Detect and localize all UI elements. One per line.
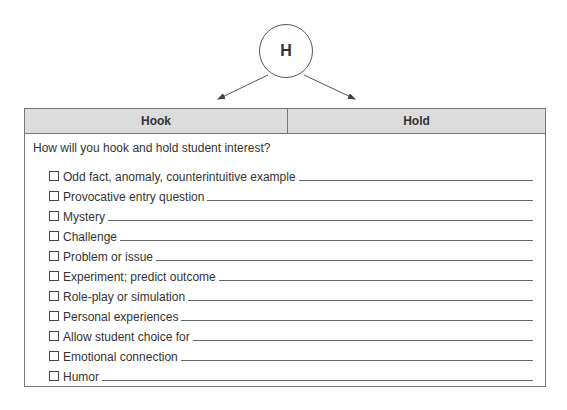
write-in-line[interactable] (108, 220, 533, 221)
checkbox[interactable] (49, 311, 59, 321)
item-label: Provocative entry question (63, 190, 204, 204)
item-label: Odd fact, anomaly, counterintuitive exam… (63, 170, 296, 184)
write-in-line[interactable] (207, 200, 533, 201)
hook-hold-table: Hook Hold How will you hook and hold stu… (24, 108, 546, 387)
checklist-item: Mystery (49, 204, 533, 224)
item-label: Challenge (63, 230, 117, 244)
checklist-item: Odd fact, anomaly, counterintuitive exam… (49, 164, 533, 184)
checkbox[interactable] (49, 251, 59, 261)
item-label: Role-play or simulation (63, 290, 185, 304)
arrow-right-icon (304, 75, 355, 99)
checkbox[interactable] (49, 271, 59, 281)
checklist-item: Humor (49, 364, 533, 384)
checkbox[interactable] (49, 231, 59, 241)
write-in-line[interactable] (102, 380, 533, 381)
write-in-line[interactable] (193, 340, 533, 341)
checkbox[interactable] (49, 191, 59, 201)
write-in-line[interactable] (181, 360, 533, 361)
prompt-question: How will you hook and hold student inter… (33, 141, 270, 155)
branch-arrows (0, 0, 567, 110)
checklist-item: Challenge (49, 224, 533, 244)
header-hook: Hook (25, 109, 288, 133)
item-label: Humor (63, 370, 99, 384)
checklist: Odd fact, anomaly, counterintuitive exam… (49, 164, 533, 384)
checklist-item: Allow student choice for (49, 324, 533, 344)
item-label: Experiment; predict outcome (63, 270, 216, 284)
checkbox[interactable] (49, 351, 59, 361)
table-header: Hook Hold (25, 109, 545, 134)
write-in-line[interactable] (120, 240, 533, 241)
item-label: Emotional connection (63, 350, 178, 364)
item-label: Problem or issue (63, 250, 153, 264)
checklist-item: Problem or issue (49, 244, 533, 264)
checkbox[interactable] (49, 211, 59, 221)
header-hold: Hold (288, 109, 545, 133)
checkbox[interactable] (49, 331, 59, 341)
checklist-item: Emotional connection (49, 344, 533, 364)
write-in-line[interactable] (219, 280, 533, 281)
write-in-line[interactable] (156, 260, 533, 261)
write-in-line[interactable] (181, 320, 533, 321)
write-in-line[interactable] (188, 300, 533, 301)
item-label: Mystery (63, 210, 105, 224)
checklist-item: Provocative entry question (49, 184, 533, 204)
item-label: Allow student choice for (63, 330, 190, 344)
checkbox[interactable] (49, 291, 59, 301)
checklist-item: Role-play or simulation (49, 284, 533, 304)
checklist-item: Personal experiences (49, 304, 533, 324)
checkbox[interactable] (49, 171, 59, 181)
item-label: Personal experiences (63, 310, 178, 324)
checklist-item: Experiment; predict outcome (49, 264, 533, 284)
checkbox[interactable] (49, 371, 59, 381)
arrow-left-icon (218, 75, 268, 99)
write-in-line[interactable] (299, 180, 533, 181)
